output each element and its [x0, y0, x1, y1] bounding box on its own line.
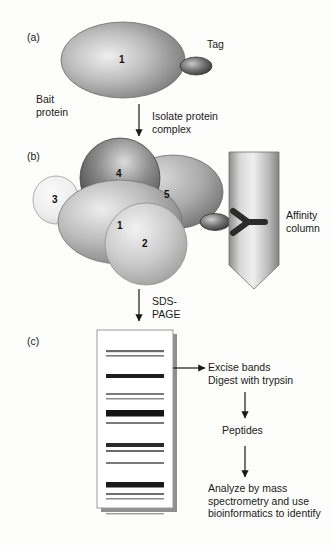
gel-band — [106, 350, 164, 352]
gel-shape — [97, 330, 173, 508]
figure-protein-complex-purification: (a) (b) (c) 1 Bait protein Tag Isolate p… — [0, 0, 333, 545]
gel-band — [106, 498, 164, 500]
panel-c-graphics — [97, 330, 177, 514]
gel-band — [106, 374, 164, 378]
bait-protein-label: Bait protein — [36, 93, 68, 118]
panel-a-graphics — [61, 22, 212, 98]
gel-band — [106, 422, 164, 424]
gel-band — [106, 443, 164, 447]
tag-label: Tag — [207, 38, 224, 51]
gel-band — [106, 482, 164, 488]
panel-label-b: (b) — [27, 150, 40, 162]
subunit-label-3: 3 — [52, 194, 58, 205]
subunit-label-5: 5 — [164, 189, 170, 200]
tag-on-complex-shape — [200, 214, 230, 231]
peptides-label: Peptides — [222, 424, 263, 437]
isolate-complex-label: Isolate protein complex — [152, 110, 218, 135]
subunit-label-2: 2 — [142, 238, 148, 249]
subunit-label-1-bait: 1 — [119, 54, 125, 65]
analyze-label: Analyze by mass spectrometry and use bio… — [208, 482, 321, 520]
sds-page-label: SDS- PAGE — [152, 295, 180, 320]
gel-band — [106, 410, 164, 417]
gel-band — [106, 513, 164, 514]
gel-band — [106, 462, 164, 464]
excise-bands-label: Excise bands Digest with trypsin — [208, 361, 293, 386]
panel-b-graphics — [33, 138, 279, 289]
gel-band — [106, 393, 164, 395]
gel-band — [106, 450, 164, 452]
gel-band — [106, 355, 164, 357]
gel-band — [106, 398, 164, 400]
panel-label-a: (a) — [27, 31, 40, 43]
subunit-label-4: 4 — [116, 168, 122, 179]
gel-band — [106, 493, 164, 495]
diagram-canvas — [0, 0, 333, 545]
affinity-column-label: Affinity column — [286, 209, 320, 234]
panel-label-c: (c) — [27, 335, 39, 347]
tag-shape — [180, 57, 212, 75]
subunit-label-1: 1 — [117, 220, 123, 231]
